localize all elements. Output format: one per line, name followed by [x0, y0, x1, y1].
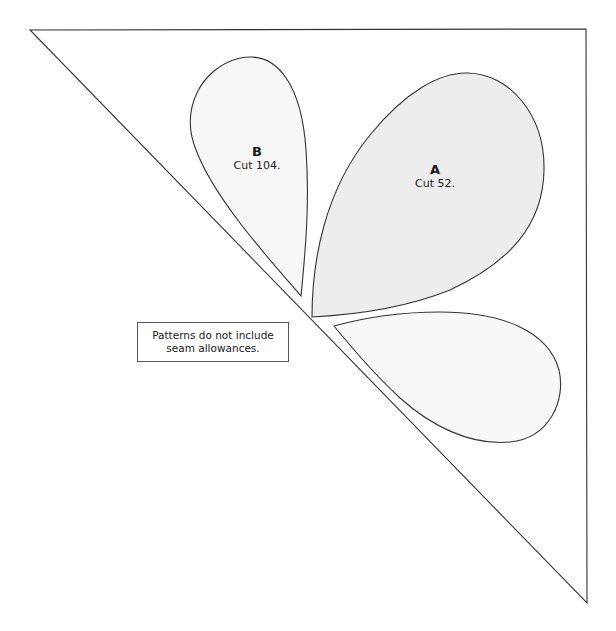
pattern-canvas [0, 0, 616, 631]
piece-b-cut-count: Cut 104. [222, 160, 292, 173]
seam-allowance-notice: Patterns do not include seam allowances. [137, 322, 289, 362]
piece-a-label: A Cut 52. [395, 163, 475, 191]
seam-allowance-notice-text: Patterns do not include seam allowances. [138, 329, 288, 355]
piece-a-letter: A [395, 163, 475, 178]
piece-b-letter: B [222, 145, 292, 160]
piece-a-cut-count: Cut 52. [395, 178, 475, 191]
piece-b-label: B Cut 104. [222, 145, 292, 173]
